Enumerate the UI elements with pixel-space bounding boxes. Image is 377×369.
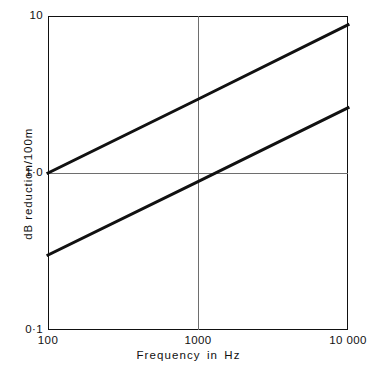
y-axis-title: dB reduction/100m	[23, 99, 35, 269]
series-upper-attenuation-line	[48, 25, 348, 173]
data-lines	[0, 0, 377, 369]
x-tick-label-1000: 1000	[158, 335, 238, 347]
x-tick-label-100: 100	[8, 335, 88, 347]
y-tick-label-10: 10	[0, 10, 43, 22]
series-lower-attenuation-line	[48, 108, 348, 255]
x-axis-title: Frequency in Hz	[0, 350, 377, 362]
y-tick-label-0-1: 0·1	[0, 324, 43, 336]
log-log-chart: 10 1·0 0·1 100 1000 10 000 Frequency in …	[0, 0, 377, 369]
x-tick-label-10000: 10 000	[308, 335, 377, 347]
